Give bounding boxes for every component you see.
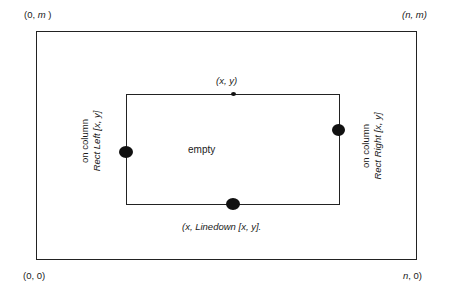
right-column-label: on column Rect Right [x, y]: [360, 94, 386, 198]
top-point-marker: [231, 92, 236, 96]
empty-rectangle: [126, 94, 340, 205]
corner-label-top-right: (n, m): [402, 9, 427, 20]
left-label-line2: Rect Left [x, y]: [91, 91, 103, 191]
bottom-point-label: (x, Linedown [x, y].: [182, 221, 261, 232]
corner-label-bottom-right: n, 0): [403, 270, 422, 281]
left-column-label: on column Rect Left [x, y]: [79, 91, 105, 191]
left-point-marker: [119, 146, 133, 158]
empty-label: empty: [188, 144, 215, 155]
corner-label-bottom-left: (0, 0): [23, 270, 45, 281]
corner-label-top-left: (0, m ): [24, 9, 51, 20]
left-label-line1: on column: [79, 91, 91, 191]
bottom-point-marker: [226, 198, 240, 210]
m-var: m: [38, 9, 46, 20]
top-point-label: (x, y): [216, 75, 237, 86]
right-label-line2: Rect Right [x, y]: [372, 94, 384, 198]
right-point-marker: [332, 124, 345, 136]
right-label-line1: on column: [360, 94, 372, 198]
